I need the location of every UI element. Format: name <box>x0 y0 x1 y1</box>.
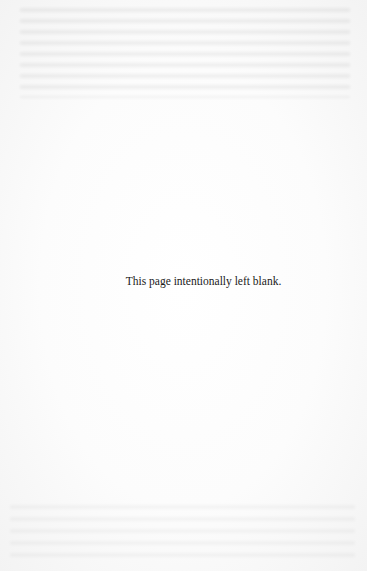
blank-page-notice: This page intentionally left blank. <box>0 274 367 288</box>
document-page: This page intentionally left blank. <box>0 0 367 571</box>
bleed-through-artifact-top <box>20 8 350 98</box>
bleed-through-artifact-bottom <box>10 505 355 565</box>
